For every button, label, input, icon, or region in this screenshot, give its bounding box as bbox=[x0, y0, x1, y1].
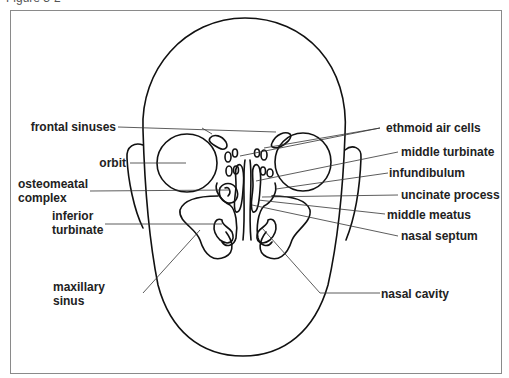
label-middle-meatus: middle meatus bbox=[387, 208, 471, 222]
label-ethmoid-air-cells: ethmoid air cells bbox=[386, 121, 481, 135]
label-osteomeatal-line2: complex bbox=[18, 191, 67, 205]
label-orbit: orbit bbox=[60, 156, 126, 170]
label-infundibulum: infundibulum bbox=[389, 166, 465, 180]
label-maxillary-sinus-line2: sinus bbox=[53, 294, 84, 308]
label-uncinate-process: uncinate process bbox=[401, 188, 500, 202]
left-ear bbox=[127, 144, 143, 228]
label-maxillary-sinus-line1: maxillary bbox=[53, 280, 105, 294]
label-nasal-septum: nasal septum bbox=[401, 229, 478, 243]
label-osteomeatal-line1: osteomeatal bbox=[18, 177, 88, 191]
label-nasal-cavity: nasal cavity bbox=[381, 287, 449, 301]
right-maxillary-sinus bbox=[260, 196, 310, 259]
label-middle-turbinate: middle turbinate bbox=[401, 145, 494, 159]
label-frontal-sinuses: frontal sinuses bbox=[30, 120, 116, 134]
right-frontal-sinus bbox=[271, 133, 290, 148]
label-inferior-turbinate-line1: inferior bbox=[52, 209, 93, 223]
label-inferior-turbinate-line2: turbinate bbox=[52, 223, 103, 237]
left-maxillary-sinus bbox=[180, 196, 232, 259]
